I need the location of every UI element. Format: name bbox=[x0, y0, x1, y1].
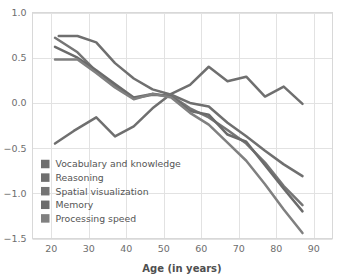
x-tick-label: 90 bbox=[308, 243, 320, 254]
x-tick-label: 50 bbox=[158, 243, 170, 254]
x-tick-label: 40 bbox=[120, 243, 132, 254]
line-chart-figure: 1.00.50.0−0.5−1.0−1.5 2030405060708090 V… bbox=[0, 0, 350, 280]
x-axis-title: Age (in years) bbox=[142, 263, 221, 274]
legend-swatch-3 bbox=[41, 201, 50, 210]
legend-label-1: Reasoning bbox=[56, 172, 104, 183]
legend-swatch-1 bbox=[41, 173, 50, 182]
x-tick-label: 30 bbox=[83, 243, 95, 254]
y-tick-label: 1.0 bbox=[11, 7, 26, 18]
y-tick-label: −1.5 bbox=[3, 233, 26, 244]
legend-label-0: Vocabulary and knowledge bbox=[56, 158, 182, 169]
legend-swatch-2 bbox=[41, 187, 50, 196]
legend-label-3: Memory bbox=[56, 199, 94, 210]
chart-canvas: 1.00.50.0−0.5−1.0−1.5 2030405060708090 V… bbox=[0, 0, 350, 280]
legend-swatch-4 bbox=[41, 214, 50, 223]
y-tick-label: −0.5 bbox=[3, 143, 26, 154]
legend-swatch-0 bbox=[41, 160, 50, 169]
legend-label-2: Spatial visualization bbox=[56, 186, 149, 197]
legend-label-4: Processing speed bbox=[56, 213, 137, 224]
y-tick-label: −1.0 bbox=[3, 188, 26, 199]
x-tick-label: 60 bbox=[195, 243, 207, 254]
x-tick-label: 20 bbox=[45, 243, 57, 254]
x-tick-label: 70 bbox=[233, 243, 245, 254]
y-tick-label: 0.0 bbox=[11, 97, 26, 108]
y-tick-label: 0.5 bbox=[11, 52, 26, 63]
x-tick-label: 80 bbox=[270, 243, 282, 254]
